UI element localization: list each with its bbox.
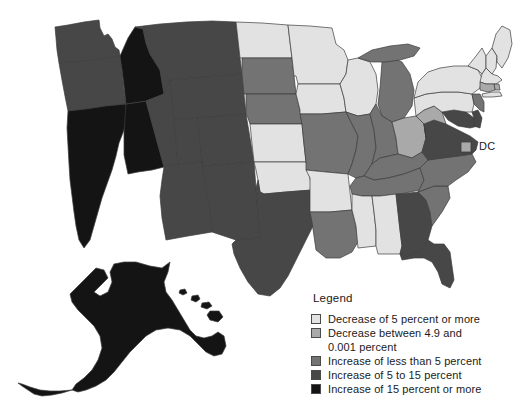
legend-item-decrease-5-or-more[interactable]: Decrease of 5 percent or more <box>311 313 511 326</box>
state-alaska[interactable] <box>70 262 226 392</box>
state-south-dakota[interactable] <box>242 58 296 94</box>
legend-label-decrease-4-9-to-0-001: Decrease between 4.9 and <box>328 327 462 340</box>
state-washington[interactable] <box>55 20 120 63</box>
legend-item-decrease-4-9-to-0-001[interactable]: Decrease between 4.9 and <box>311 327 511 340</box>
alaska-inset-group <box>18 262 226 396</box>
state-hawaii-kauai[interactable] <box>179 289 187 295</box>
state-arkansas[interactable] <box>306 170 352 212</box>
state-minnesota[interactable] <box>288 25 348 84</box>
state-nebraska[interactable] <box>246 94 302 124</box>
state-california[interactable] <box>67 104 128 248</box>
legend-item-increase-15-or-more[interactable]: Increase of 15 percent or more <box>311 383 511 396</box>
legend-swatch-decrease-4-9-to-0-001 <box>311 328 321 338</box>
hawaii-inset-group <box>179 289 223 322</box>
state-colorado[interactable] <box>198 114 254 166</box>
dc-marker-swatch[interactable] <box>461 142 471 152</box>
state-oregon[interactable] <box>59 56 126 111</box>
legend-label-decrease-4-9-to-0-001-cont: 0.001 percent <box>328 341 511 354</box>
state-missouri[interactable] <box>300 112 358 174</box>
legend-title: Legend <box>313 292 511 304</box>
state-louisiana[interactable] <box>310 210 358 258</box>
legend-label-increase-5-to-15: Increase of 5 to 15 percent <box>328 369 462 382</box>
state-utah-notch[interactable] <box>174 118 202 164</box>
state-north-dakota[interactable] <box>236 22 292 58</box>
alaska-aleutian-tail[interactable] <box>18 383 72 396</box>
state-oklahoma[interactable] <box>254 162 312 194</box>
choropleth-map-figure: DC Legend Decrease of 5 percent or more … <box>0 0 518 414</box>
contiguous-states-group <box>55 20 512 296</box>
legend-label-decrease-5-or-more: Decrease of 5 percent or more <box>328 313 480 326</box>
dc-label: DC <box>479 140 495 152</box>
legend-label-increase-less-than-5: Increase of less than 5 percent <box>328 355 482 368</box>
state-new-jersey[interactable] <box>472 94 484 112</box>
state-long-island[interactable] <box>482 92 502 97</box>
legend-swatch-decrease-5-or-more <box>311 314 321 324</box>
state-kansas[interactable] <box>250 124 306 162</box>
legend: Legend Decrease of 5 percent or more Dec… <box>311 292 511 397</box>
state-hawaii-oahu[interactable] <box>191 295 200 302</box>
legend-label-increase-15-or-more: Increase of 15 percent or more <box>328 383 481 396</box>
state-hawaii-big-island[interactable] <box>207 311 223 322</box>
state-iowa[interactable] <box>296 84 346 114</box>
state-michigan-upper[interactable] <box>358 44 420 62</box>
legend-swatch-increase-15-or-more <box>311 384 321 394</box>
legend-item-increase-5-to-15[interactable]: Increase of 5 to 15 percent <box>311 369 511 382</box>
state-hawaii-maui[interactable] <box>201 302 212 309</box>
state-wyoming[interactable] <box>170 74 246 120</box>
legend-swatch-increase-less-than-5 <box>311 356 321 366</box>
legend-item-increase-less-than-5[interactable]: Increase of less than 5 percent <box>311 355 511 368</box>
legend-swatch-increase-5-to-15 <box>311 370 321 380</box>
state-michigan-lower[interactable] <box>378 58 414 122</box>
